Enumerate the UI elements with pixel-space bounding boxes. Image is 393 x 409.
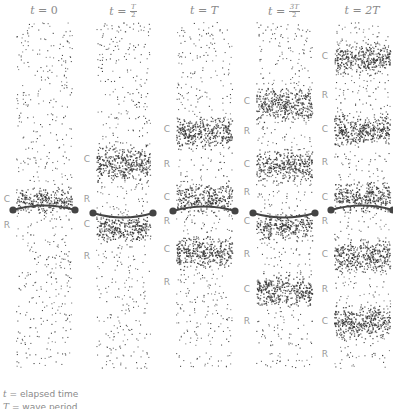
title-fraction: 3T2 xyxy=(289,4,300,19)
title-prefix: t = xyxy=(268,5,289,18)
title-value: 0 xyxy=(51,4,58,17)
caption-text-t: = elapsed time xyxy=(7,389,79,399)
column-title-t_half: t = T2 xyxy=(83,4,163,19)
compression-label: C xyxy=(82,154,92,164)
compression-label: C xyxy=(162,244,172,254)
title-value: 2T xyxy=(365,4,379,17)
particle-field-t_half xyxy=(0,0,393,409)
membrane-anchor-left xyxy=(169,207,176,214)
caption-text-T: = wave period xyxy=(9,402,78,409)
fraction-denominator: 2 xyxy=(130,12,137,19)
membrane-curve xyxy=(173,207,235,212)
compression-label: C xyxy=(242,216,252,226)
rarefaction-label: R xyxy=(2,220,12,230)
rarefaction-label: R xyxy=(242,316,252,326)
membrane-anchor-left xyxy=(9,206,16,213)
title-prefix: t = xyxy=(30,4,51,17)
compression-label: C xyxy=(242,159,252,169)
rarefaction-label: R xyxy=(320,284,330,294)
membrane-anchor-right xyxy=(311,209,318,216)
compression-label: C xyxy=(162,124,172,134)
rarefaction-label: R xyxy=(320,157,330,167)
membrane-anchor-right xyxy=(389,206,393,213)
column-title-tT: t = T xyxy=(164,4,244,17)
membrane-anchor-left xyxy=(327,206,334,213)
rarefaction-label: R xyxy=(82,194,92,204)
membrane-curve xyxy=(93,213,153,218)
caption-wave-period: T = wave period xyxy=(3,402,78,409)
particle-field-tT xyxy=(0,0,393,409)
membrane-anchor-right xyxy=(71,206,78,213)
column-title-t0: t = 0 xyxy=(4,4,84,17)
title-fraction: T2 xyxy=(130,4,137,19)
compression-label: C xyxy=(320,249,330,259)
membrane-anchor-right xyxy=(231,207,238,214)
particle-field-t0 xyxy=(0,0,393,409)
compression-label: C xyxy=(242,96,252,106)
rarefaction-label: R xyxy=(320,349,330,359)
rarefaction-label: R xyxy=(242,249,252,259)
title-prefix: t = xyxy=(190,4,211,17)
compression-label: C xyxy=(2,194,12,204)
title-prefix: t = xyxy=(109,5,130,18)
compression-label: C xyxy=(320,124,330,134)
compression-label: C xyxy=(320,192,330,202)
caption-elapsed-time: t = elapsed time xyxy=(3,389,78,399)
rarefaction-label: R xyxy=(82,251,92,261)
membrane-anchor-right xyxy=(149,209,156,216)
rarefaction-label: R xyxy=(162,216,172,226)
compression-label: C xyxy=(162,192,172,202)
membrane-curve xyxy=(13,206,75,211)
membrane-anchor-left xyxy=(89,209,96,216)
rarefaction-label: R xyxy=(242,187,252,197)
column-title-t3half: t = 3T2 xyxy=(244,4,324,19)
compression-label: C xyxy=(242,284,252,294)
rarefaction-label: R xyxy=(162,277,172,287)
compression-label: C xyxy=(320,51,330,61)
title-prefix: t = xyxy=(345,4,366,17)
rarefaction-label: R xyxy=(242,126,252,136)
title-value: T xyxy=(211,4,218,17)
particle-field-t2T xyxy=(0,0,393,409)
membrane-curve xyxy=(331,206,393,211)
particle-field-t3half xyxy=(0,0,393,409)
rarefaction-label: R xyxy=(162,159,172,169)
column-title-t2T: t = 2T xyxy=(322,4,393,17)
membrane-curve xyxy=(253,213,315,218)
fraction-denominator: 2 xyxy=(289,12,300,19)
rarefaction-label: R xyxy=(320,90,330,100)
compression-label: C xyxy=(82,219,92,229)
rarefaction-label: R xyxy=(320,216,330,226)
compression-label: C xyxy=(320,316,330,326)
